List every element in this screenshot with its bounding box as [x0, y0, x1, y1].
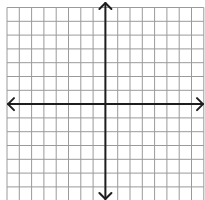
coordinate-plane [0, 0, 205, 200]
axes [8, 3, 203, 199]
